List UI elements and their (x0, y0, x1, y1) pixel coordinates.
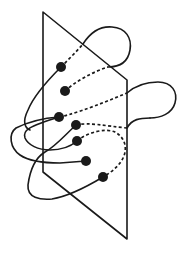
intersection-dot (72, 136, 82, 146)
knot-plane-diagram (0, 0, 183, 253)
intersection-points (54, 62, 108, 182)
intersection-dot (60, 86, 70, 96)
intersection-dot (81, 156, 91, 166)
plane (43, 12, 127, 239)
intersection-dot (98, 172, 108, 182)
intersection-dot (71, 120, 81, 130)
intersection-dot (56, 62, 66, 72)
dashed-curve (59, 44, 127, 177)
intersection-dot (54, 112, 64, 122)
